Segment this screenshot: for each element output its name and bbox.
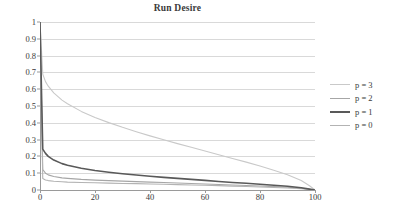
legend-label: p = 1 (355, 107, 373, 117)
y-axis-tick-labels: 00.10.20.30.40.50.60.70.80.91 (0, 0, 36, 223)
y-axis-tick-label: 0.9 (2, 34, 36, 44)
chart-legend: p = 3p = 2p = 1p = 0 (330, 78, 400, 132)
legend-item[interactable]: p = 1 (330, 105, 400, 118)
legend-label: p = 0 (355, 120, 373, 130)
x-axis-tick-mark (315, 190, 316, 193)
y-axis-tick-label: 0.2 (2, 151, 36, 161)
legend-swatch (330, 125, 350, 126)
y-axis-tick-mark (37, 38, 40, 39)
legend-item[interactable]: p = 2 (330, 92, 400, 105)
y-axis-tick-mark (37, 122, 40, 123)
y-axis-tick-label: 0 (2, 185, 36, 195)
series-line (40, 22, 315, 190)
x-axis-tick-label: 60 (201, 192, 210, 202)
x-axis-tick-label: 80 (256, 192, 265, 202)
chart-title: Run Desire (40, 3, 315, 13)
series-line (40, 22, 315, 190)
legend-item[interactable]: p = 0 (330, 119, 400, 132)
y-axis-tick-label: 0.7 (2, 67, 36, 77)
y-axis-tick-label: 0.1 (2, 168, 36, 178)
x-axis-tick-label: 40 (146, 192, 155, 202)
y-axis-tick-label: 0.5 (2, 101, 36, 111)
x-axis-tick-mark (150, 190, 151, 193)
legend-swatch (330, 98, 350, 99)
y-axis-tick-mark (37, 173, 40, 174)
y-axis-tick-mark (37, 89, 40, 90)
legend-item[interactable]: p = 3 (330, 78, 400, 91)
series-curves (40, 22, 315, 190)
x-axis-tick-mark (205, 190, 206, 193)
y-axis-tick-label: 0.4 (2, 118, 36, 128)
legend-label: p = 2 (355, 93, 373, 103)
x-axis-line (40, 190, 316, 191)
legend-swatch (330, 84, 350, 85)
y-axis-tick-mark (37, 139, 40, 140)
y-axis-tick-label: 1 (2, 17, 36, 27)
y-axis-tick-mark (37, 72, 40, 73)
x-axis-tick-mark (260, 190, 261, 193)
series-line (40, 22, 315, 190)
y-axis-tick-mark (37, 106, 40, 107)
y-axis-tick-label: 0.3 (2, 135, 36, 145)
legend-label: p = 3 (355, 80, 373, 90)
legend-swatch (330, 111, 350, 113)
y-axis-tick-mark (37, 156, 40, 157)
x-axis-tick-label: 100 (309, 192, 322, 202)
chart-container: Run Desire 00.10.20.30.40.50.60.70.80.91… (0, 0, 402, 223)
y-axis-tick-label: 0.8 (2, 51, 36, 61)
x-axis-tick-mark (95, 190, 96, 193)
y-axis-tick-label: 0.6 (2, 84, 36, 94)
y-axis-tick-mark (37, 55, 40, 56)
series-line (40, 22, 315, 190)
x-axis-tick-label: 20 (91, 192, 100, 202)
x-axis-tick-label: 0 (38, 192, 42, 202)
y-axis-tick-mark (37, 22, 40, 23)
x-axis-tick-mark (40, 190, 41, 193)
